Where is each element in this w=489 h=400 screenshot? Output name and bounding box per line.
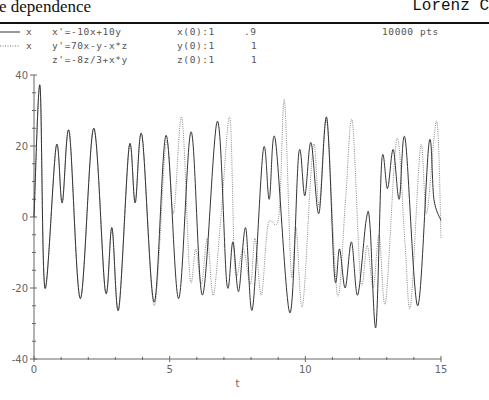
tick-labels: 40200-20-40051015t [12, 70, 448, 389]
y-tick-label: -20 [12, 283, 28, 294]
y-tick-label: 40 [15, 70, 28, 81]
plot-area: 40200-20-40051015t [0, 0, 489, 400]
x-tick-label: 0 [31, 364, 37, 375]
x-tick-label: 10 [299, 364, 312, 375]
x-tick-label: 5 [166, 364, 172, 375]
x-tick-label: 15 [435, 364, 448, 375]
series-x [34, 85, 441, 328]
y-tick-label: 0 [22, 212, 28, 223]
y-tick-label: 20 [15, 141, 28, 152]
x-axis-label: t [236, 378, 240, 389]
y-tick-label: -40 [12, 354, 28, 365]
